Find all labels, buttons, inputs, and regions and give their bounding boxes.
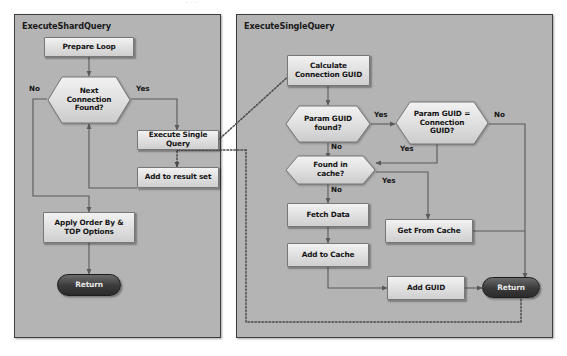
- node-add-to-result-set-label: Add to result set: [145, 173, 212, 182]
- node-fetch-data-label: Fetch Data: [306, 211, 349, 220]
- node-prepare-loop-label: Prepare Loop: [62, 43, 115, 52]
- node-fetch-data[interactable]: Fetch Data: [287, 203, 369, 227]
- edge-label-cache-yes: Yes: [382, 176, 395, 185]
- node-param-guid-equals-label: Param GUID = Connection GUID?: [395, 101, 489, 145]
- panel-title-single: ExecuteSingleQuery: [244, 21, 334, 31]
- node-param-guid-equals-connection-guid[interactable]: Param GUID = Connection GUID?: [395, 101, 489, 145]
- node-found-in-cache-label: Found in cache?: [285, 155, 376, 185]
- node-calculate-connection-guid[interactable]: Calculate Connection GUID: [287, 55, 370, 86]
- edge-label-param-found-yes: Yes: [374, 110, 387, 119]
- node-apply-order-by[interactable]: Apply Order By & TOP Options: [43, 212, 135, 243]
- node-next-connection-found-label: Next Connection Found?: [47, 76, 131, 124]
- node-execute-single-query-label: Execute Single Query: [140, 131, 216, 149]
- node-add-guid[interactable]: Add GUID: [387, 276, 465, 300]
- node-get-from-cache-label: Get From Cache: [398, 227, 461, 236]
- node-found-in-cache[interactable]: Found in cache?: [285, 155, 376, 185]
- edge-label-param-found-no: No: [331, 142, 342, 151]
- node-get-from-cache[interactable]: Get From Cache: [385, 219, 473, 243]
- node-add-to-cache-label: Add to Cache: [302, 251, 355, 260]
- edge-label-shard-yes: Yes: [136, 84, 149, 93]
- node-single-return[interactable]: Return: [482, 277, 540, 298]
- edge-label-param-eq-yes: Yes: [400, 144, 413, 153]
- node-apply-order-by-label: Apply Order By & TOP Options: [55, 219, 124, 237]
- node-next-connection-found[interactable]: Next Connection Found?: [47, 76, 131, 124]
- node-single-return-label: Return: [497, 283, 525, 292]
- node-add-guid-label: Add GUID: [407, 284, 445, 293]
- node-shard-return[interactable]: Return: [57, 274, 121, 296]
- node-prepare-loop[interactable]: Prepare Loop: [44, 37, 134, 57]
- node-add-to-result-set[interactable]: Add to result set: [137, 167, 219, 188]
- node-shard-return-label: Return: [75, 280, 103, 289]
- node-calculate-connection-guid-label: Calculate Connection GUID: [295, 62, 362, 80]
- node-add-to-cache[interactable]: Add to Cache: [287, 243, 369, 267]
- node-execute-single-query[interactable]: Execute Single Query: [137, 130, 219, 150]
- edge-label-shard-no: No: [29, 84, 40, 93]
- top-artifact-text: · · ·: [186, 0, 197, 7]
- edge-label-param-eq-no: No: [494, 110, 505, 119]
- edge-label-cache-no: No: [331, 185, 342, 194]
- node-param-guid-found-label: Param GUID found?: [285, 105, 371, 143]
- node-param-guid-found[interactable]: Param GUID found?: [285, 105, 371, 143]
- panel-title-shard: ExecuteShardQuery: [22, 21, 111, 31]
- flowchart-diagram: · · · ExecuteShardQuery ExecuteSingleQue…: [0, 0, 567, 356]
